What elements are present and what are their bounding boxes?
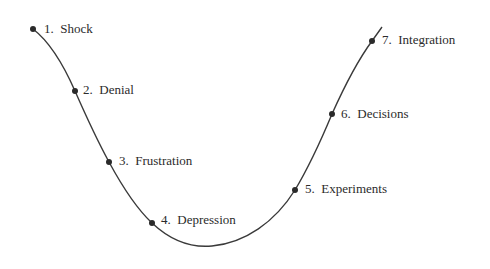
stage-dot-experiments: [292, 187, 298, 193]
stage-dot-depression: [149, 220, 155, 226]
stage-dot-integration: [369, 38, 375, 44]
stage-dot-denial: [72, 88, 78, 94]
stage-dot-decisions: [329, 111, 335, 117]
stage-dots: [30, 26, 375, 226]
stage-label-shock: 1. Shock: [44, 22, 93, 36]
stage-label-experiments: 5. Experiments: [305, 182, 387, 196]
stage-dot-shock: [30, 26, 36, 32]
stage-dot-frustration: [106, 159, 112, 165]
change-curve-diagram: 1. Shock 2. Denial 3. Frustration 4. Dep…: [0, 0, 490, 269]
stage-label-depression: 4. Depression: [161, 213, 236, 227]
stage-label-frustration: 3. Frustration: [119, 154, 192, 168]
stage-label-integration: 7. Integration: [382, 33, 455, 47]
stage-label-denial: 2. Denial: [83, 83, 134, 97]
stage-label-decisions: 6. Decisions: [341, 107, 409, 121]
